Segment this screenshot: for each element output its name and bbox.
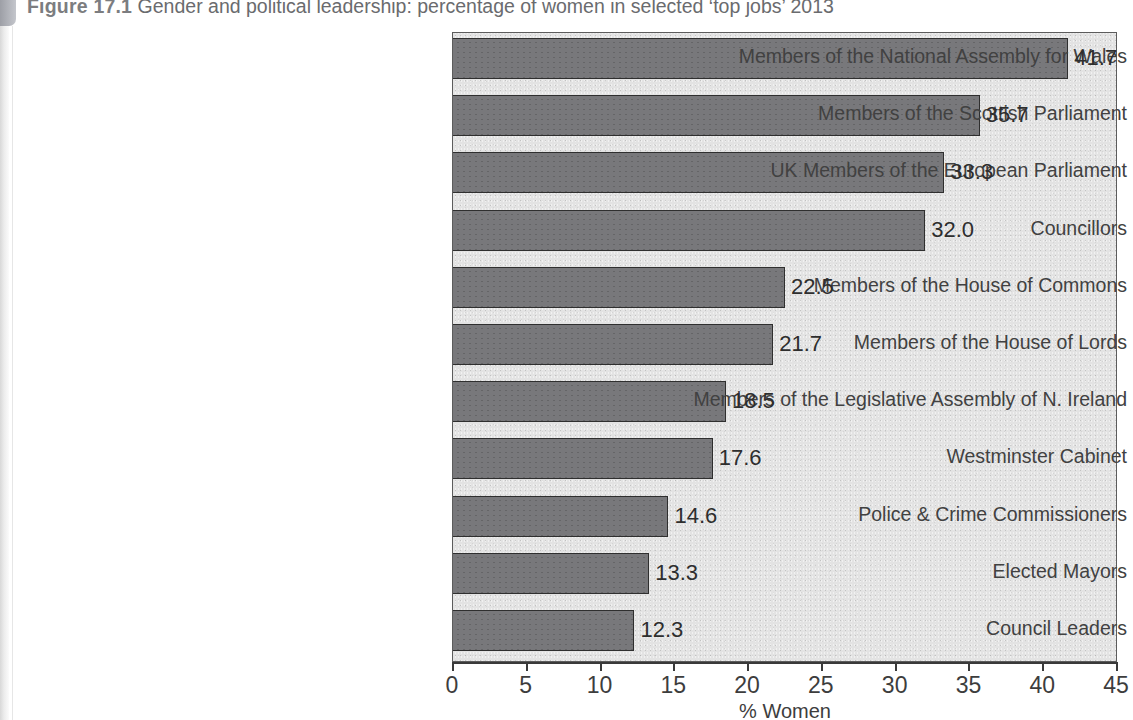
bar: [452, 381, 726, 422]
x-axis-tick: [600, 662, 602, 671]
x-axis-line: [452, 662, 1118, 664]
bar-value-label: 18.5: [725, 380, 775, 421]
bar-value-label: 13.3: [648, 552, 698, 593]
bar-texture: [453, 439, 712, 478]
category-label: Councillors: [687, 217, 1133, 240]
x-axis-tick: [747, 662, 749, 671]
bar-value-label: 33.3: [943, 151, 993, 192]
x-axis-tick-label: 0: [422, 672, 482, 699]
x-axis-tick-label: 10: [570, 672, 630, 699]
category-label: Elected Mayors: [687, 560, 1133, 583]
x-axis-tick-label: 30: [865, 672, 925, 699]
x-axis-tick-label: 5: [496, 672, 556, 699]
x-axis-tick: [452, 662, 454, 671]
x-axis-tick-label: 45: [1086, 672, 1133, 699]
x-axis-tick-label: 25: [791, 672, 851, 699]
x-axis-tick-label: 40: [1012, 672, 1072, 699]
x-axis-tick-label: 20: [717, 672, 777, 699]
bar-texture: [453, 611, 633, 650]
x-axis-tick: [895, 662, 897, 671]
page-tab-artifact: [0, 0, 16, 26]
bar-chart: Members of the National Assembly for Wal…: [0, 0, 1133, 720]
bar-value-label: 17.6: [712, 437, 762, 478]
bar-value-label: 12.3: [633, 609, 683, 650]
bar: [452, 438, 713, 479]
bar-texture: [453, 382, 725, 421]
bar-value-label: 41.7: [1067, 37, 1117, 78]
x-axis-title: % Women: [452, 700, 1118, 720]
x-axis-tick: [821, 662, 823, 671]
x-axis-tick: [526, 662, 528, 671]
x-axis-tick: [1042, 662, 1044, 671]
bar: [452, 553, 649, 594]
bar-value-label: 14.6: [667, 495, 717, 536]
bar-texture: [453, 497, 667, 536]
category-label: Members of the House of Lords: [687, 331, 1133, 354]
x-axis-tick-label: 35: [938, 672, 998, 699]
x-axis-tick-label: 15: [643, 672, 703, 699]
bar-value-label: 21.7: [772, 323, 822, 364]
category-label: Members of the National Assembly for Wal…: [687, 45, 1133, 68]
x-axis-tick: [1116, 662, 1118, 671]
category-label: UK Members of the European Parliament: [687, 159, 1133, 182]
category-label: Members of the House of Commons: [687, 274, 1133, 297]
bar-texture: [453, 554, 648, 593]
bar-value-label: 35.7: [979, 94, 1029, 135]
category-label: Members of the Scottish Parliament: [687, 102, 1133, 125]
x-axis-tick: [673, 662, 675, 671]
category-label: Council Leaders: [687, 617, 1133, 640]
bar: [452, 496, 668, 537]
bar: [452, 610, 634, 651]
figure-number: Figure 17.1: [27, 0, 132, 17]
figure-caption: Figure 17.1 Gender and political leaders…: [27, 0, 834, 20]
x-axis-tick: [968, 662, 970, 671]
bar-value-label: 22.5: [784, 266, 834, 307]
bar-value-label: 32.0: [924, 209, 974, 250]
category-label: Police & Crime Commissioners: [687, 503, 1133, 526]
figure-caption-text: Gender and political leadership: percent…: [138, 0, 834, 17]
